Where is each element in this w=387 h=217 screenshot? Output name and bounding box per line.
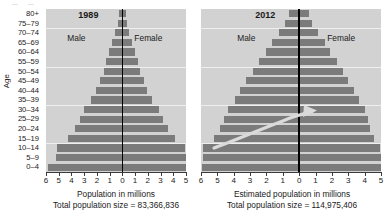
bar-male xyxy=(100,77,122,84)
male-label-2012: Male xyxy=(237,33,255,43)
pyramid-row xyxy=(201,67,381,77)
x-tick-label: 1 xyxy=(281,176,285,185)
pyramid-row xyxy=(201,134,381,144)
pyramid-row xyxy=(46,57,186,67)
bar-male xyxy=(228,106,299,113)
x-tick-label: 0 xyxy=(297,176,301,185)
pyramid-row xyxy=(46,143,186,153)
bar-female xyxy=(299,48,330,55)
bar-male xyxy=(203,144,299,151)
bar-male xyxy=(203,154,300,161)
bar-male xyxy=(253,68,300,75)
bar-female xyxy=(299,10,308,17)
pyramid-row xyxy=(46,134,186,144)
bar-male xyxy=(104,68,122,75)
bar-female xyxy=(299,106,364,113)
x-tick-label: 4 xyxy=(231,176,235,185)
age-tick-label: 20–24 xyxy=(18,124,39,134)
pyramid-row xyxy=(201,47,381,57)
x-tick-label: 3 xyxy=(158,176,162,185)
x-tick-label: 0 xyxy=(120,176,124,185)
pyramid-row xyxy=(46,95,186,105)
bar-male xyxy=(272,39,299,46)
pyramid-row xyxy=(201,124,381,134)
x-tick-label: 5 xyxy=(215,176,219,185)
bar-female xyxy=(122,68,140,75)
x-tick-label: 2 xyxy=(264,176,268,185)
bar-female xyxy=(299,154,381,161)
x-axis-1989: 654321012345 xyxy=(46,172,186,186)
bar-male xyxy=(224,116,299,123)
bar-female xyxy=(122,135,174,142)
age-tick-label: 50–54 xyxy=(18,67,39,77)
caption-2012: Estimated population in millions Total p… xyxy=(206,189,378,210)
pyramid-row xyxy=(201,95,381,105)
age-tick-label: 10–14 xyxy=(18,143,39,153)
bar-female xyxy=(122,29,129,36)
bar-male xyxy=(68,135,122,142)
scan-artifact-right: — xyxy=(28,1,34,7)
bar-male xyxy=(56,154,123,161)
age-tick-label: 65–69 xyxy=(18,38,39,48)
bar-female xyxy=(299,116,368,123)
age-tick-label: 40–44 xyxy=(18,86,39,96)
pyramid-row xyxy=(201,153,381,163)
bar-male xyxy=(106,58,122,65)
pyramid-row xyxy=(201,86,381,96)
pyramid-row xyxy=(201,114,381,124)
x-axis-line-1989 xyxy=(46,172,186,173)
bar-female xyxy=(122,48,135,55)
pyramid-row xyxy=(201,143,381,153)
age-tick-label: 15–19 xyxy=(18,134,39,144)
bar-female xyxy=(122,106,159,113)
x-tick-label: 6 xyxy=(199,176,203,185)
x-axis-label-2012: Estimated population in millions xyxy=(206,189,378,200)
x-tick-label: 4 xyxy=(69,176,73,185)
pyramid-row xyxy=(46,162,186,172)
pyramid-row xyxy=(46,86,186,96)
male-label-1989: Male xyxy=(67,33,85,43)
year-label-1989: 1989 xyxy=(78,10,98,20)
scan-artifact-left: — xyxy=(12,1,18,7)
bar-female xyxy=(122,58,137,65)
bar-female xyxy=(299,87,354,94)
x-tick-label: 1 xyxy=(133,176,137,185)
bar-male xyxy=(96,87,122,94)
bar-female xyxy=(299,39,324,46)
age-tick-label: 45–49 xyxy=(18,76,39,86)
pyramid-row xyxy=(46,76,186,86)
x-axis-line-2012 xyxy=(201,172,381,173)
pyramid-row xyxy=(201,57,381,67)
age-tick-label: 5–9 xyxy=(26,153,39,163)
age-tick-label: 35–39 xyxy=(18,95,39,105)
bar-female xyxy=(299,58,337,65)
bar-male xyxy=(75,125,123,132)
bar-female xyxy=(122,154,186,161)
x-tick-label: 3 xyxy=(82,176,86,185)
x-tick-label: 2 xyxy=(330,176,334,185)
pyramid-row xyxy=(201,19,381,29)
x-tick-label: 4 xyxy=(362,176,366,185)
pyramid-row xyxy=(46,124,186,134)
pyramid-row xyxy=(46,47,186,57)
age-tick-label: 70–74 xyxy=(18,28,39,38)
age-tick-label: 55–59 xyxy=(18,57,39,67)
year-label-2012: 2012 xyxy=(255,10,275,20)
x-axis-label-1989: Population in millions xyxy=(36,189,196,200)
bar-male xyxy=(48,164,122,171)
pyramid-row xyxy=(46,67,186,77)
age-tick-label: 80+ xyxy=(26,9,39,19)
x-tick-label: 1 xyxy=(313,176,317,185)
center-axis-line-2012 xyxy=(298,9,299,172)
bar-female xyxy=(299,164,381,171)
bar-female xyxy=(299,144,380,151)
bar-female xyxy=(122,96,152,103)
pyramid-row xyxy=(46,153,186,163)
pyramid-row xyxy=(201,105,381,115)
bar-male xyxy=(285,20,299,27)
total-population-1989: Total population size = 83,366,836 xyxy=(36,200,196,211)
bar-female xyxy=(122,87,147,94)
x-tick-label: 5 xyxy=(379,176,383,185)
bar-male xyxy=(214,135,299,142)
bar-female xyxy=(299,135,373,142)
